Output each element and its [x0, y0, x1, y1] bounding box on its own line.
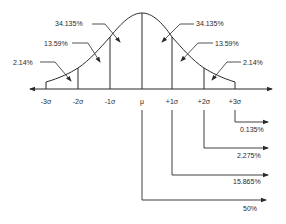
leader-right-outer	[212, 62, 241, 80]
axis-label-minus2: -2σ	[73, 98, 84, 105]
label-left-outer: 2.14%	[13, 59, 33, 66]
axis-label-plus1: +1σ	[166, 98, 179, 105]
leader-left-outer	[40, 62, 71, 81]
label-left-inner: 34.135%	[55, 20, 83, 27]
axis-label-mean: μ	[140, 98, 144, 106]
axis-label-minus1: -1σ	[105, 98, 116, 105]
normal-distribution-diagram: 34.135% 13.59% 2.14% 34.135% 13.59% 2.14…	[0, 0, 286, 224]
cumulative-label-mean: 50%	[243, 205, 257, 212]
cumulative-label-plus1: 15.865%	[233, 178, 261, 185]
label-right-inner: 34.135%	[196, 20, 224, 27]
axis-label-plus3: +3σ	[229, 98, 242, 105]
label-left-middle: 13.59%	[44, 40, 68, 47]
cumulative-line-plus3	[235, 110, 268, 122]
axis-label-minus3: -3σ	[41, 98, 52, 105]
label-right-outer: 2.14%	[243, 59, 263, 66]
leader-left-inner	[92, 24, 120, 42]
cumulative-label-plus3: 0.135%	[240, 126, 264, 133]
axis-label-plus2: +2σ	[198, 98, 211, 105]
leader-right-inner	[162, 24, 194, 42]
label-right-middle: 13.59%	[215, 40, 239, 47]
cumulative-label-plus2: 2.275%	[237, 152, 261, 159]
cumulative-line-plus1	[172, 110, 268, 175]
